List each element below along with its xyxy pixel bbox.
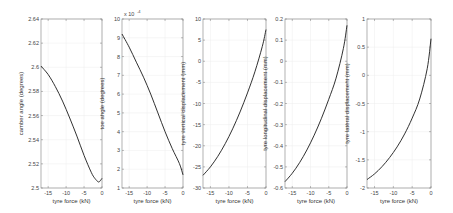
y-multiplier-exponent: -4 <box>137 9 141 14</box>
subplot-3: -30-25-20-15-10-50510-15-10-50tyre force… <box>180 16 268 204</box>
y-tick-label: -2 <box>360 185 365 191</box>
subplot-4: -0.6-0.5-0.4-0.3-0.2-0.100.10.2-15-10-50… <box>262 16 349 204</box>
y-axis-label: tyre vertical displacement (mm) <box>180 62 186 145</box>
y-tick-label: 0 <box>198 58 201 64</box>
y-tick-label: -0.2 <box>274 101 283 107</box>
y-tick-label: 2.52 <box>28 161 39 167</box>
data-line <box>367 39 431 180</box>
x-axis-label: tyre force (kN) <box>133 198 171 204</box>
y-tick-label: -1.5 <box>356 157 365 163</box>
y-tick-label: 1 <box>117 185 120 191</box>
y-tick-label: -0.5 <box>274 164 283 170</box>
figure: 2.52.522.542.562.582.62.622.64-15-10-50t… <box>0 0 453 213</box>
x-axis-label: tyre force (kN) <box>215 198 253 204</box>
x-axis-label: tyre force (kN) <box>297 198 335 204</box>
x-tick-label: -5 <box>326 190 331 196</box>
y-axis-label: tyre longitudinal displacement (mm) <box>262 56 268 151</box>
x-tick-label: -10 <box>143 190 151 196</box>
y-axis-label: tyre lateral displacement (mm) <box>344 63 350 144</box>
subplot-1: 2.52.522.542.562.582.62.622.64-15-10-50t… <box>18 16 104 204</box>
data-line <box>122 34 183 175</box>
y-multiplier: x 10 <box>124 11 134 17</box>
axes-box <box>41 19 102 188</box>
y-tick-label: 2.6 <box>31 64 39 70</box>
y-tick-label: 2.5 <box>31 185 39 191</box>
y-tick-label: 2.54 <box>28 137 39 143</box>
y-tick-label: -0.6 <box>274 185 283 191</box>
y-tick-label: -10 <box>193 101 201 107</box>
y-tick-label: 9 <box>117 35 120 41</box>
x-axis-label: tyre force (kN) <box>52 198 90 204</box>
y-axis-label: camber angle (degrees) <box>18 72 24 136</box>
y-tick-label: 2.62 <box>28 40 39 46</box>
y-tick-label: -5 <box>196 79 201 85</box>
subplot-5: -2-1.5-1-0.500.51-15-10-50tyre force (kN… <box>344 16 433 204</box>
x-tick-label: 0 <box>345 190 348 196</box>
y-tick-label: -20 <box>193 143 201 149</box>
y-tick-label: -0.3 <box>274 122 283 128</box>
y-tick-label: 7 <box>117 72 120 78</box>
y-tick-label: -0.5 <box>356 101 365 107</box>
y-tick-label: 3 <box>117 147 120 153</box>
x-tick-label: -10 <box>225 190 233 196</box>
y-tick-label: -30 <box>193 185 201 191</box>
y-tick-label: 10 <box>114 16 120 22</box>
y-tick-label: -1 <box>360 129 365 135</box>
y-tick-label: 5 <box>198 37 201 43</box>
x-tick-label: 0 <box>181 190 184 196</box>
y-tick-label: 4 <box>117 129 120 135</box>
y-tick-label: 2.58 <box>28 88 39 94</box>
y-tick-label: 0 <box>362 72 365 78</box>
x-tick-label: -5 <box>410 190 415 196</box>
y-tick-label: 2 <box>117 166 120 172</box>
y-tick-label: 0.2 <box>275 16 283 22</box>
x-tick-label: -5 <box>163 190 168 196</box>
subplot-2: 12345678910-15-10-50tyre force (kN)toe a… <box>99 9 185 204</box>
y-tick-label: 2.64 <box>28 16 39 22</box>
x-tick-label: -5 <box>82 190 87 196</box>
x-tick-label: -15 <box>44 190 52 196</box>
y-tick-label: 5 <box>117 110 120 116</box>
x-tick-label: -15 <box>288 190 296 196</box>
y-tick-label: 6 <box>117 91 120 97</box>
x-tick-label: -15 <box>125 190 133 196</box>
x-tick-label: -10 <box>307 190 315 196</box>
x-tick-label: 0 <box>429 190 432 196</box>
x-tick-label: 0 <box>100 190 103 196</box>
y-tick-label: -0.1 <box>274 79 283 85</box>
y-tick-label: 1 <box>362 16 365 22</box>
x-tick-label: 0 <box>264 190 267 196</box>
y-axis-label: toe angle (degrees) <box>99 77 105 129</box>
y-tick-label: 0.1 <box>275 37 283 43</box>
x-axis-label: tyre force (kN) <box>380 198 418 204</box>
data-line <box>41 66 102 182</box>
x-tick-label: -10 <box>389 190 397 196</box>
y-tick-label: -0.4 <box>274 143 283 149</box>
y-tick-label: -15 <box>193 122 201 128</box>
data-line <box>203 30 266 176</box>
y-tick-label: 10 <box>195 16 201 22</box>
y-tick-label: 0 <box>280 58 283 64</box>
x-tick-label: -5 <box>245 190 250 196</box>
x-tick-label: -15 <box>206 190 214 196</box>
y-tick-label: 2.56 <box>28 113 39 119</box>
y-tick-label: 0.5 <box>357 44 365 50</box>
y-tick-label: -25 <box>193 164 201 170</box>
x-tick-label: -10 <box>62 190 70 196</box>
axes-box <box>122 19 183 188</box>
x-tick-label: -15 <box>371 190 379 196</box>
y-tick-label: 8 <box>117 54 120 60</box>
